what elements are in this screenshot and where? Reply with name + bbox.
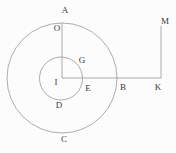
point-label-k: K	[155, 82, 162, 92]
point-label-g: G	[79, 55, 86, 65]
geometry-diagram: A O G I E B K M D C	[0, 0, 176, 153]
point-label-b: B	[120, 82, 126, 92]
point-label-o: O	[54, 23, 61, 33]
geometry-canvas: A O G I E B K M D C	[0, 0, 176, 153]
page-background: { "figure": { "labels": { "a": "A", "o":…	[0, 0, 176, 153]
point-label-a: A	[62, 5, 69, 15]
point-label-i: I	[55, 77, 58, 87]
point-label-m: M	[161, 16, 169, 26]
inner-circle	[40, 57, 83, 100]
point-label-c: C	[61, 134, 67, 144]
point-label-d: D	[56, 100, 63, 110]
point-label-e: E	[85, 83, 91, 93]
